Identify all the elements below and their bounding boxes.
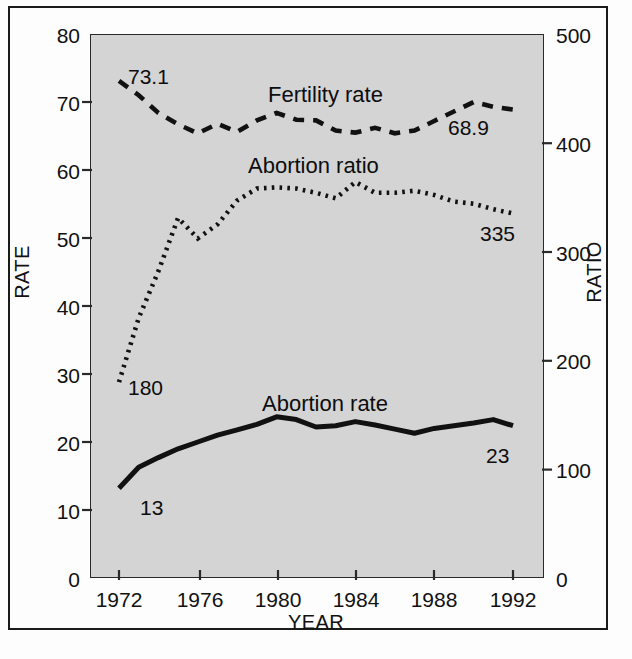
ytick-left-10: 10 xyxy=(34,501,80,522)
xtick-1992: 1992 xyxy=(468,589,558,610)
annotation-fertility-start: 73.1 xyxy=(128,66,169,87)
ytick-left-70: 70 xyxy=(34,93,80,114)
xtick-1972: 1972 xyxy=(74,589,164,610)
y-axis-title-left: RATE xyxy=(12,245,32,298)
x-axis-title: YEAR xyxy=(0,612,632,632)
annotation-ratio-end: 335 xyxy=(480,223,515,244)
ytick-left-20: 20 xyxy=(34,433,80,454)
xtick-1984: 1984 xyxy=(311,589,401,610)
ytick-right-200: 200 xyxy=(556,351,591,372)
annotation-rate-end: 23 xyxy=(486,445,509,466)
xtick-1980: 1980 xyxy=(233,589,323,610)
y-axis-title-right: RATIO xyxy=(584,241,604,303)
ytick-left-60: 60 xyxy=(34,161,80,182)
chart-stage: 80 70 60 50 40 30 20 10 0 500 400 300 20… xyxy=(0,0,632,659)
xtick-1976: 1976 xyxy=(155,589,245,610)
figure-root: 80 70 60 50 40 30 20 10 0 500 400 300 20… xyxy=(0,0,632,659)
ytick-left-50: 50 xyxy=(34,229,80,250)
xtick-1988: 1988 xyxy=(389,589,479,610)
annotation-ratio-name: Abortion ratio xyxy=(248,155,379,177)
annotation-fertility-name: Fertility rate xyxy=(268,84,383,106)
annotation-fertility-end: 68.9 xyxy=(448,117,489,138)
ytick-right-400: 400 xyxy=(556,134,591,155)
ytick-left-80: 80 xyxy=(34,25,80,46)
annotation-ratio-start: 180 xyxy=(128,377,163,398)
annotation-rate-name: Abortion rate xyxy=(262,393,388,415)
ytick-right-0: 0 xyxy=(556,569,568,590)
ytick-left-40: 40 xyxy=(34,297,80,318)
ytick-left-0: 0 xyxy=(34,569,80,590)
ytick-right-100: 100 xyxy=(556,460,591,481)
ytick-right-500: 500 xyxy=(556,25,591,46)
annotation-rate-start: 13 xyxy=(140,497,163,518)
ytick-left-30: 30 xyxy=(34,365,80,386)
